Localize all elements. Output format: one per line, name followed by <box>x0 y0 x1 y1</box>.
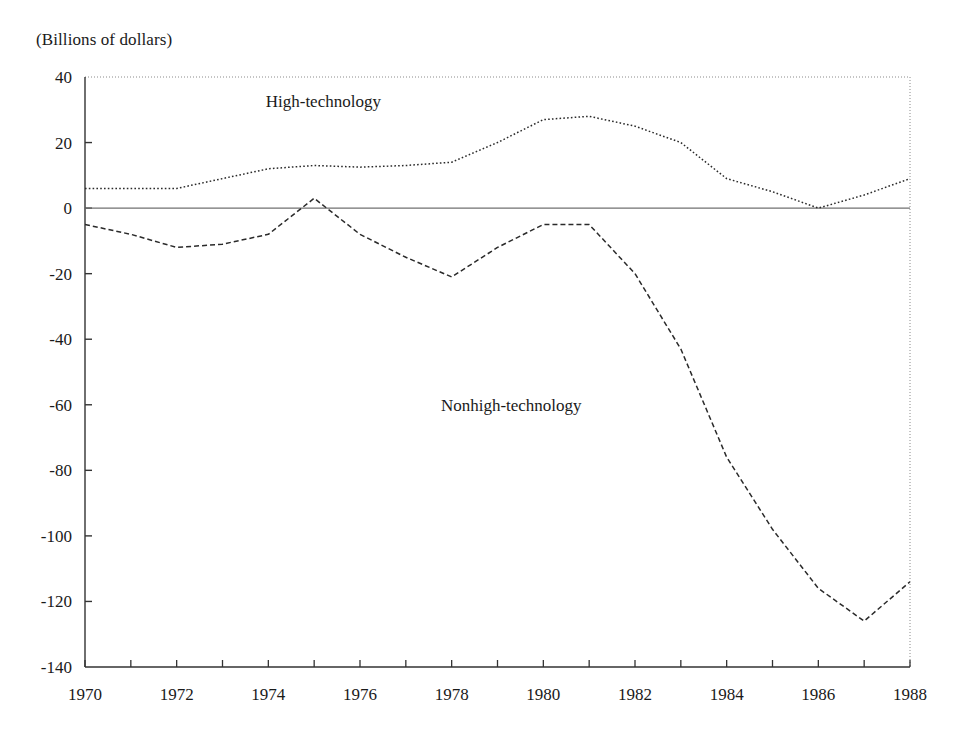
x-axis-tick-label: 1982 <box>618 685 652 704</box>
y-axis-tick-label: -120 <box>41 592 72 611</box>
x-axis-tick-label: 1976 <box>343 685 377 704</box>
x-axis-tick-label: 1972 <box>160 685 194 704</box>
y-axis-tick-label: -100 <box>41 527 72 546</box>
series-line-0 <box>85 116 910 208</box>
series-label-0: High-technology <box>266 92 382 111</box>
y-axis-tick-label: 40 <box>55 68 72 87</box>
x-axis-tick-label: 1980 <box>526 685 560 704</box>
y-axis-tick-label: -20 <box>49 265 72 284</box>
y-axis-tick-label: -80 <box>49 461 72 480</box>
x-axis-tick-label: 1974 <box>251 685 286 704</box>
y-axis-tick-label: -140 <box>41 658 72 677</box>
x-axis-tick-label: 1970 <box>68 685 102 704</box>
y-axis-tick-label: 0 <box>64 199 73 218</box>
chart-figure: (Billions of dollars) 40200-20-40-60-80-… <box>0 0 954 744</box>
x-axis-tick-label: 1984 <box>710 685 745 704</box>
line-chart-plot: 40200-20-40-60-80-100-120-14019701972197… <box>0 0 954 744</box>
x-axis-tick-label: 1988 <box>893 685 927 704</box>
series-label-1: Nonhigh-technology <box>441 396 582 415</box>
y-axis-tick-label: -40 <box>49 330 72 349</box>
x-axis-tick-label: 1986 <box>801 685 835 704</box>
x-axis-tick-label: 1978 <box>435 685 469 704</box>
y-axis-tick-label: 20 <box>55 134 72 153</box>
y-axis-tick-label: -60 <box>49 396 72 415</box>
